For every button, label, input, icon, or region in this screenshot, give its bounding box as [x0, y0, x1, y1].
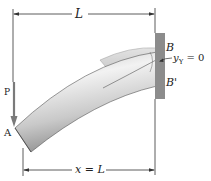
load-arrow	[11, 82, 18, 127]
deflected-beam	[15, 52, 157, 152]
bottom-length-label: x = L	[75, 164, 105, 175]
slope-zero-label: yY = 0	[173, 53, 204, 66]
point-b-prime-label: B'	[166, 77, 177, 88]
cantilever-diagram	[0, 0, 211, 181]
point-a-label: A	[4, 128, 11, 138]
top-length-label: L	[75, 8, 83, 20]
load-label: P	[4, 88, 10, 97]
fixed-wall	[155, 33, 165, 99]
